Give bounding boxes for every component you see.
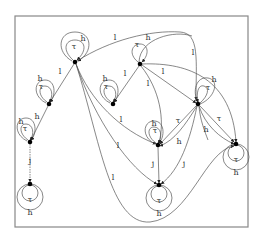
edge-label: l [114,33,117,42]
edge-labels: hτlhτlllllhτhτhτhhτlhτττhhljjjlτhτhτh [18,33,238,218]
diagram-frame [15,16,248,227]
edge-label: τ [234,155,239,164]
edge-label: τ [39,82,44,91]
edge-n2-n4 [114,66,139,102]
edge-label: j [151,159,154,168]
state-diagram: hτlhτlllllhτhτhτhhτlhτττhhljjjlτhτhτh [0,0,260,240]
edge-n7-n10 [158,147,159,183]
state-node-n2 [138,62,143,67]
edge-label: l [117,141,120,150]
edge-label: l [192,48,195,57]
state-node-n10 [157,183,162,188]
state-node-n3 [47,102,52,107]
state-node-n6 [28,140,33,145]
edge-label: j [182,159,185,168]
state-node-n4 [111,102,116,107]
edge-label: τ [176,116,181,125]
edge-n2-n7 [141,66,161,143]
edge-label: h [34,112,39,121]
edge-label: h [156,209,161,218]
edge-label: τ [104,82,109,91]
nodes [28,60,239,188]
state-node-n7 [156,143,161,148]
edge-label: l [59,67,62,76]
edge-label: h [176,137,181,146]
edge-label: l [124,69,127,78]
edge-label: l [112,173,115,182]
state-node-n1 [73,60,78,65]
edge-label: j [28,156,31,165]
edge-label: τ [153,126,158,135]
edge-label: h [203,125,208,134]
edge-label: τ [135,40,140,49]
edge-label: τ [157,196,162,205]
edge-label: τ [23,124,28,133]
edge-n2-n5 [142,65,196,103]
edge-label: h [211,75,216,84]
edge-n1-n8 [76,64,234,222]
edge-label: τ [217,114,222,123]
edge-n1-n10 [76,64,157,184]
edge-label: l [162,67,165,76]
state-node-n5 [196,102,201,107]
edge-label: l [120,115,123,124]
edge-label: h [27,208,32,217]
edge-label: l [147,79,150,88]
edge-label: τ [28,195,33,204]
edge-n1-n7 [76,64,156,144]
edge-label: h [145,33,150,42]
state-node-n9 [28,182,33,187]
edge-label: h [233,168,238,177]
edge-label: τ [72,42,77,51]
edge-n5-out [199,106,208,140]
edge-n5-n8-tau [200,106,234,142]
state-node-n8 [234,142,239,147]
edge-label: h [80,34,85,43]
edge-label: τ [206,83,211,92]
edges [17,32,249,222]
